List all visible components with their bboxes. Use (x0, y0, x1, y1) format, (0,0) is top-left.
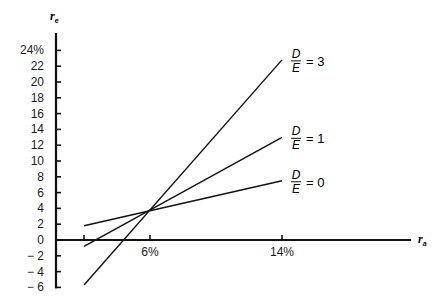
svg-text:D: D (292, 168, 301, 182)
x-tick-label: 6% (141, 245, 159, 259)
svg-text:D: D (292, 124, 301, 138)
y-tick-label: 12 (31, 138, 45, 152)
svg-text:E: E (292, 182, 301, 196)
y-tick-label: 10 (31, 154, 45, 168)
svg-text:D: D (292, 47, 301, 61)
x-axis-title: ra (418, 232, 427, 247)
y-tick-label: 14 (31, 122, 45, 136)
y-tick-label: 16 (31, 107, 45, 121)
chart: 24%2220181614121086420− 2− 4− 6 6%14% DE… (0, 0, 440, 303)
y-tick-label: 2 (37, 217, 44, 231)
y-tick-label: − 2 (27, 249, 44, 263)
series-label-de-0: DE= 0 (291, 168, 324, 196)
y-axis: 24%2220181614121086420− 2− 4− 6 (20, 33, 61, 294)
series-label-de-1: DE= 1 (291, 124, 324, 152)
x-tick-label: 14% (270, 245, 294, 259)
svg-text:= 0: = 0 (306, 175, 324, 190)
series-label-de-3: DE= 3 (291, 47, 324, 75)
y-tick-label: 18 (31, 91, 45, 105)
y-axis-title: re (50, 9, 59, 24)
series-labels: DE= 3DE= 1DE= 0 (291, 47, 324, 196)
svg-text:= 3: = 3 (306, 54, 324, 69)
y-tick-label: 22 (31, 59, 45, 73)
series-lines (84, 60, 282, 285)
svg-text:E: E (292, 61, 301, 75)
y-tick-label: 6 (37, 186, 44, 200)
svg-text:E: E (292, 138, 301, 152)
svg-text:= 1: = 1 (306, 131, 324, 146)
y-tick-label: − 4 (27, 265, 44, 279)
y-tick-label: − 6 (27, 280, 44, 294)
y-tick-label: 20 (31, 75, 45, 89)
y-tick-label: 4 (37, 201, 44, 215)
series-line-de-1 (84, 137, 282, 246)
series-line-de-0 (84, 181, 282, 226)
y-tick-label: 8 (37, 170, 44, 184)
series-line-de-3 (84, 60, 282, 285)
y-tick-label: 24% (20, 43, 44, 57)
y-tick-label: 0 (37, 233, 44, 247)
